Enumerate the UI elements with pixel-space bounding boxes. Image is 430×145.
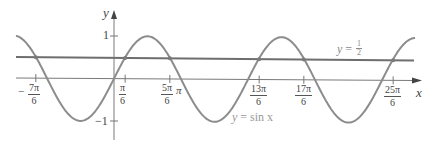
intersection-point [302, 58, 306, 62]
intersection-point [257, 57, 261, 61]
x-axis-arrow-icon [412, 78, 422, 84]
intersection-point [391, 58, 395, 62]
intersection-point [168, 56, 172, 60]
half-line [16, 57, 414, 61]
x-axis-label: x [416, 86, 422, 99]
x-tick-sign-neg-7pi6: − [18, 85, 24, 97]
x-tick-label-neg-7pi6: 7π 6 [28, 83, 40, 106]
y-tick-label-neg1: −1 [95, 115, 108, 127]
y-axis-arrow-icon [111, 10, 117, 19]
x-tick-label-13pi6: 13π 6 [250, 84, 267, 107]
sine-graph [0, 0, 430, 145]
x-axis [16, 78, 416, 81]
sine-curve-label: y = sin x [232, 111, 273, 123]
half-line-label: y = 1 2 [337, 40, 362, 57]
x-tick-label-25pi6: 25π 6 [384, 85, 401, 108]
intersection-point [34, 55, 38, 59]
intersection-point [123, 56, 127, 60]
x-tick-label-pi: π [176, 85, 182, 96]
y-axis-label: y [103, 6, 109, 19]
y-tick-label-1: 1 [103, 29, 109, 41]
x-tick-label-5pi6: 5π 6 [161, 83, 173, 106]
x-tick-label-pi6: π 6 [119, 83, 126, 106]
x-tick-label-17pi6: 17π 6 [295, 84, 312, 107]
